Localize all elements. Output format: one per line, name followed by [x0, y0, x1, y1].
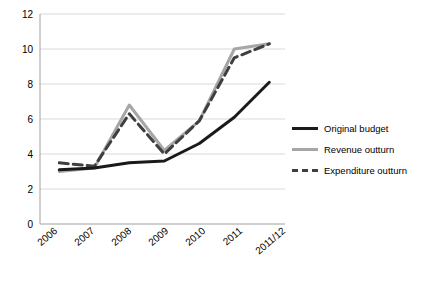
- y-axis-tick-labels: 12 10 8 6 4 2 0: [22, 9, 34, 230]
- legend-label: Original budget: [324, 123, 388, 134]
- legend-label: Expenditure outturn: [324, 165, 407, 176]
- x-tick-label: 2009: [146, 225, 170, 248]
- legend-label: Revenue outturn: [324, 144, 394, 155]
- x-tick-label: 2010: [183, 225, 207, 248]
- y-tick-label: 0: [27, 219, 33, 230]
- legend-item-revenue-outturn: Revenue outturn: [292, 139, 422, 160]
- series-line-original-budget: [59, 82, 269, 170]
- legend-item-expenditure-outturn: Expenditure outturn: [292, 160, 422, 181]
- legend-item-original-budget: Original budget: [292, 118, 422, 139]
- x-axis-tick-labels: 2006 2007 2008 2009 2010 2011 2011/12: [35, 225, 287, 256]
- chart-legend: Original budget Revenue outturn Expendit…: [292, 118, 422, 181]
- series-line-expenditure-outturn: [59, 44, 269, 167]
- series-line-revenue-outturn: [59, 44, 269, 172]
- x-tick-label: 2008: [109, 225, 133, 248]
- x-tick-label: 2007: [72, 225, 96, 248]
- x-tick-label: 2011/12: [253, 225, 288, 256]
- chart-container: 12 10 8 6 4 2 0 2006 2007 2008 2009 2010…: [0, 0, 425, 291]
- x-tick-label: 2011: [221, 225, 245, 248]
- legend-swatch-expenditure-outturn: [292, 169, 318, 172]
- x-tick-label: 2006: [35, 225, 59, 248]
- y-tick-label: 10: [22, 44, 34, 55]
- legend-swatch-revenue-outturn: [292, 148, 318, 151]
- y-tick-label: 6: [27, 114, 33, 125]
- y-tick-label: 2: [27, 184, 33, 195]
- legend-swatch-original-budget: [292, 127, 318, 130]
- y-tick-label: 12: [22, 9, 34, 20]
- y-tick-label: 8: [27, 79, 33, 90]
- y-tick-label: 4: [27, 149, 33, 160]
